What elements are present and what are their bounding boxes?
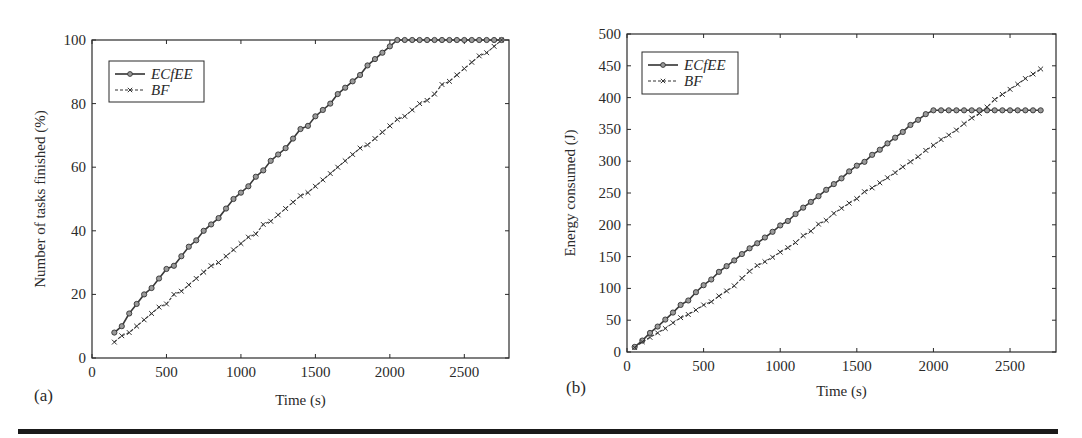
x-tick-label: 500 [155,364,178,380]
data-point [755,263,760,268]
data-point [328,101,333,106]
data-point [447,37,452,42]
data-point [870,186,875,191]
data-point [387,44,392,49]
data-point [492,44,497,49]
data-point [969,116,974,121]
data-point [216,215,221,220]
data-point [885,141,890,146]
data-point [824,187,829,192]
data-point [320,107,325,112]
data-point [268,219,273,224]
data-point [961,108,966,113]
data-point [900,165,905,170]
data-point [447,79,452,84]
data-point [701,283,706,288]
data-point [268,158,273,163]
data-point [142,317,147,322]
data-point [142,292,147,297]
chart-b: 0500100015002000250005010015020025030035… [540,0,1082,420]
data-point [432,37,437,42]
y-tick-label: 60 [71,159,86,175]
data-point [1000,108,1005,113]
y-tick-label: 150 [599,249,622,265]
data-point [916,154,921,159]
data-point [701,303,706,308]
data-point [831,211,836,216]
data-point [877,147,882,152]
data-point [179,289,184,294]
x-axis-label: Time (s) [816,383,867,400]
data-point [276,213,281,218]
data-point [801,205,806,210]
data-point [410,37,415,42]
data-point [171,263,176,268]
data-point [253,232,258,237]
data-point [877,180,882,185]
data-point [655,331,660,336]
data-point [938,108,943,113]
data-point [119,324,124,329]
data-point [678,302,683,307]
data-point [694,308,699,313]
data-point [261,222,266,227]
panel-label-b: (b) [566,378,586,398]
data-point [655,324,660,329]
legend-marker-circle-icon [661,63,666,68]
data-point [246,184,251,189]
data-point [164,266,169,271]
data-point [462,37,467,42]
y-tick-label: 0 [614,344,622,360]
data-point [1008,87,1013,92]
data-point [194,238,199,243]
data-point [186,244,191,249]
data-point [923,148,928,153]
x-tick-label: 2000 [375,364,405,380]
data-point [350,152,355,157]
data-point [395,117,400,122]
data-point [357,72,362,77]
y-tick-label: 100 [599,280,622,296]
y-tick-label: 250 [599,185,622,201]
data-point [373,136,378,141]
chart-b-plot: 0500100015002000250005010015020025030035… [540,0,1082,420]
data-point [793,211,798,216]
data-point [298,126,303,131]
data-point [439,37,444,42]
panel-label-a: (a) [34,386,53,406]
data-point [740,276,745,281]
data-point [686,312,691,317]
x-tick-label: 500 [692,358,715,374]
data-point [313,114,318,119]
y-tick-label: 40 [71,223,86,239]
data-point [387,123,392,128]
data-point [663,326,668,331]
x-tick-label: 1000 [765,358,795,374]
series-ecfee [632,108,1043,350]
y-tick-label: 50 [606,312,621,328]
data-point [747,269,752,274]
y-tick-label: 450 [599,58,622,74]
data-point [671,320,676,325]
data-point [380,50,385,55]
data-point [885,175,890,180]
data-point [678,315,683,320]
data-point [969,108,974,113]
data-point [962,121,967,126]
data-point [709,299,714,304]
data-point [647,330,652,335]
data-point [931,143,936,148]
data-point [793,240,798,245]
data-point [216,260,221,265]
x-tick-label: 0 [623,358,631,374]
data-point [290,136,295,141]
data-point [778,250,783,255]
data-point [112,340,117,345]
data-point [186,282,191,287]
data-point [209,263,214,268]
data-point [992,108,997,113]
data-point [762,235,767,240]
y-axis-label: Energy consumed (J) [562,129,579,256]
data-point [313,184,318,189]
data-point [785,218,790,223]
